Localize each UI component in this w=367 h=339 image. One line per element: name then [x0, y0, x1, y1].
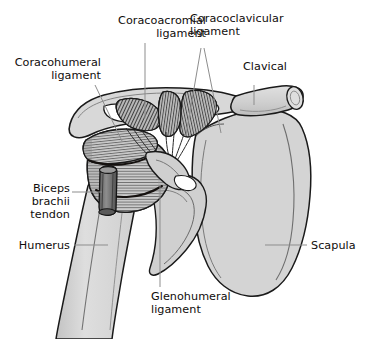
label-scapula: Scapula [311, 239, 367, 252]
label-glenohumeral-ligament: Glenohumeral ligament [151, 290, 261, 316]
label-coracohumeral-ligament: Coracohumeral ligament [0, 56, 101, 82]
label-clavical: Clavical [243, 60, 323, 73]
biceps-brachii-tendon-cylinder [99, 166, 117, 216]
anatomy-figure: Coracoacromial ligament Coracoclavicular… [0, 0, 367, 339]
shoulder-joint-illustration [0, 0, 367, 339]
label-coracoacromial-ligament: Coracoacromial ligament [58, 14, 206, 40]
label-biceps-brachii-tendon: Biceps brachii tendon [8, 182, 70, 222]
label-coracoclavicular-ligament: Coracoclavicular ligament [190, 12, 340, 38]
scapula-body [192, 110, 311, 297]
clavicle [231, 85, 306, 116]
label-humerus: Humerus [6, 239, 70, 252]
